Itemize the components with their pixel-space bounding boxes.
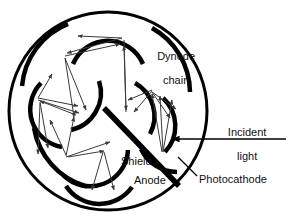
label-shield: Shield [121, 155, 152, 167]
label-incident-light-line2: light [237, 150, 257, 162]
label-anode: Anode [134, 174, 166, 186]
pmt-diagram-figure: Dynode chain Incident light Shield Anode… [0, 0, 286, 219]
label-incident-light: Incident light [213, 114, 269, 174]
label-dynode-chain-line1: Dynode [157, 50, 195, 62]
label-incident-light-line1: Incident [228, 126, 267, 138]
label-photocathode: Photocathode [199, 173, 267, 185]
pmt-cross-section-drawing [0, 0, 286, 219]
label-dynode-chain-line2: chain [163, 74, 189, 86]
label-dynode-chain: Dynode chain [144, 38, 196, 98]
